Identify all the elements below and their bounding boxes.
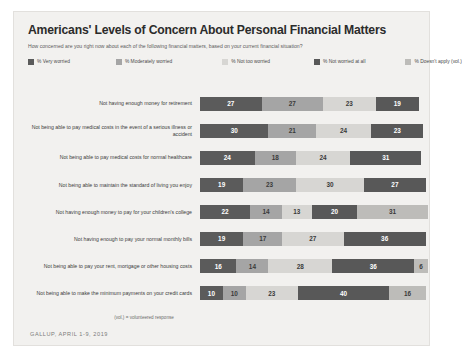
bar-segment: 16 bbox=[200, 259, 236, 273]
legend-item: % Doesn't apply (vol.) bbox=[405, 59, 461, 65]
bar-segment: 6 bbox=[414, 259, 428, 273]
bar-segment: 27 bbox=[262, 97, 324, 111]
chart-row-label: Not having enough money to pay for your … bbox=[28, 209, 200, 215]
bar-segment: 19 bbox=[200, 178, 243, 192]
legend-item: % Not too worried bbox=[222, 59, 270, 65]
bar-segment: 23 bbox=[246, 286, 298, 300]
bar-segment: 16 bbox=[389, 286, 425, 300]
bar-segment: 19 bbox=[200, 232, 243, 246]
legend-swatch-icon bbox=[405, 59, 411, 65]
bar-segment: 23 bbox=[323, 97, 375, 111]
chart-row-label: Not being able to pay medical costs in t… bbox=[28, 124, 200, 137]
bar-segment: 14 bbox=[236, 259, 268, 273]
bar-segment: 10 bbox=[223, 286, 246, 300]
bar-segment: 18 bbox=[255, 151, 296, 165]
chart-row-bars: 24182431 bbox=[200, 151, 428, 165]
chart-header: Americans' Levels of Concern About Perso… bbox=[28, 23, 417, 65]
bar-segment: 31 bbox=[357, 205, 428, 219]
chart-row-bars: 19233027 bbox=[200, 178, 428, 192]
chart-row-label: Not being able to pay your rent, mortgag… bbox=[28, 263, 200, 269]
chart-row-bars: 30212423 bbox=[200, 124, 428, 138]
bar-segment: 24 bbox=[316, 124, 371, 138]
chart-card: Americans' Levels of Concern About Perso… bbox=[13, 11, 430, 346]
chart-row: Not being able to pay medical costs for … bbox=[28, 148, 428, 167]
bar-segment: 14 bbox=[250, 205, 282, 219]
bar-segment: 27 bbox=[364, 178, 426, 192]
bar-segment: 22 bbox=[200, 205, 250, 219]
bar-segment: 10 bbox=[200, 286, 223, 300]
legend-item-label: % Very worried bbox=[37, 59, 70, 65]
stacked-bar-chart: Not having enough money for retirement27… bbox=[28, 94, 428, 311]
bar-segment: 36 bbox=[332, 259, 414, 273]
chart-row-bars: 19172736 bbox=[200, 232, 428, 246]
chart-row: Not having enough money for retirement27… bbox=[28, 94, 428, 113]
bar-segment: 31 bbox=[350, 151, 421, 165]
chart-row-bars: 2214132031 bbox=[200, 205, 428, 219]
bar-segment: 27 bbox=[200, 97, 262, 111]
chart-row-label: Not having enough money for retirement bbox=[28, 100, 200, 106]
chart-row-bars: 1010234016 bbox=[200, 286, 428, 300]
bar-segment: 24 bbox=[200, 151, 255, 165]
legend-swatch-icon bbox=[116, 59, 122, 65]
bar-segment: 24 bbox=[296, 151, 351, 165]
bar-segment: 23 bbox=[371, 124, 423, 138]
chart-row: Not having enough money to pay for your … bbox=[28, 202, 428, 221]
bar-segment: 28 bbox=[268, 259, 332, 273]
legend-item-label: % Doesn't apply (vol.) bbox=[414, 59, 461, 65]
legend-swatch-icon bbox=[314, 59, 320, 65]
bar-segment: 17 bbox=[243, 232, 282, 246]
bar-segment: 23 bbox=[243, 178, 295, 192]
chart-row-bars: 161428366 bbox=[200, 259, 428, 273]
chart-row: Not being able to make the minimum payme… bbox=[28, 284, 428, 303]
legend-swatch-icon bbox=[28, 59, 34, 65]
legend-item-label: % Not worried at all bbox=[323, 59, 365, 65]
chart-subtitle: How concerned are you right now about ea… bbox=[28, 43, 417, 50]
chart-legend: % Very worried% Moderately worried% Not … bbox=[28, 59, 417, 65]
volunteered-response-note: (vol.) = volunteered response bbox=[28, 315, 260, 320]
bar-segment: 13 bbox=[282, 205, 312, 219]
legend-item: % Not worried at all bbox=[314, 59, 365, 65]
chart-title: Americans' Levels of Concern About Perso… bbox=[28, 23, 417, 37]
bar-segment: 21 bbox=[268, 124, 316, 138]
legend-swatch-icon bbox=[222, 59, 228, 65]
source-attribution: GALLUP, APRIL 1-9, 2019 bbox=[30, 331, 108, 337]
chart-row-label: Not being able to maintain the standard … bbox=[28, 182, 200, 188]
bar-segment: 36 bbox=[344, 232, 426, 246]
legend-item: % Very worried bbox=[28, 59, 70, 65]
legend-item-label: % Moderately worried bbox=[125, 59, 172, 65]
bar-segment: 27 bbox=[282, 232, 344, 246]
bar-segment: 30 bbox=[296, 178, 364, 192]
chart-row-label: Not being able to make the minimum payme… bbox=[28, 290, 200, 296]
chart-row-label: Not having enough to pay your normal mon… bbox=[28, 236, 200, 242]
chart-row: Not being able to pay medical costs in t… bbox=[28, 121, 428, 140]
chart-row: Not having enough to pay your normal mon… bbox=[28, 229, 428, 248]
bar-segment: 30 bbox=[200, 124, 268, 138]
chart-row-bars: 27272319 bbox=[200, 97, 428, 111]
chart-row-label: Not being able to pay medical costs for … bbox=[28, 154, 200, 160]
legend-item-label: % Not too worried bbox=[231, 59, 270, 65]
bar-segment: 20 bbox=[312, 205, 358, 219]
chart-row: Not being able to pay your rent, mortgag… bbox=[28, 257, 428, 276]
bar-segment: 19 bbox=[376, 97, 419, 111]
bar-segment: 40 bbox=[298, 286, 389, 300]
chart-row: Not being able to maintain the standard … bbox=[28, 175, 428, 194]
legend-item: % Moderately worried bbox=[116, 59, 172, 65]
